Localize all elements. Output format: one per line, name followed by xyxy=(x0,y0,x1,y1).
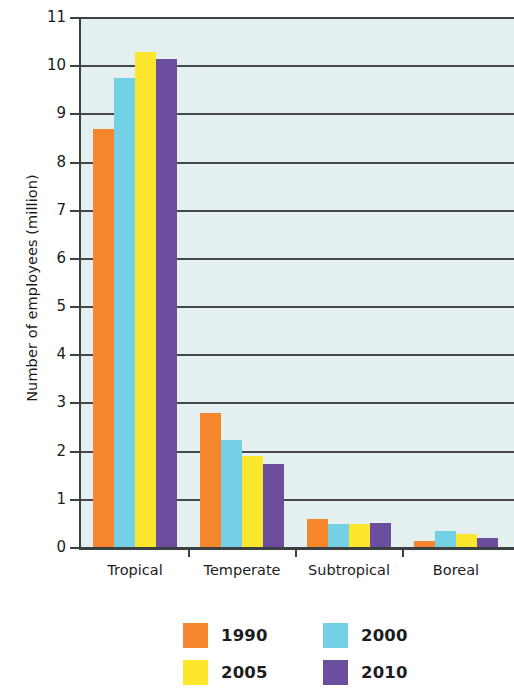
bar-tropical-1990 xyxy=(93,129,114,548)
bar-tropical-2005 xyxy=(135,52,156,548)
bar-chart-figure: Number of employees (million) 0123456789… xyxy=(0,0,514,692)
y-axis-tick xyxy=(70,162,80,164)
y-axis-tick xyxy=(70,402,80,404)
y-axis-tick xyxy=(70,451,80,453)
bar-tropical-2000 xyxy=(114,78,135,548)
y-axis-tick xyxy=(70,499,80,501)
legend-swatch-1990 xyxy=(183,623,208,648)
y-axis-tick-label: 9 xyxy=(26,106,66,121)
legend-label-2000: 2000 xyxy=(361,626,408,645)
bar-temperate-2000 xyxy=(221,440,242,548)
bar-temperate-2005 xyxy=(242,456,263,548)
y-axis-tick-label: 11 xyxy=(26,10,66,25)
y-axis-tick xyxy=(70,306,80,308)
bar-temperate-2010 xyxy=(263,464,284,548)
legend-label-1990: 1990 xyxy=(221,626,268,645)
legend-label-2010: 2010 xyxy=(361,663,408,682)
legend-swatch-2005 xyxy=(183,660,208,685)
bar-boreal-2005 xyxy=(456,534,477,548)
y-axis-tick xyxy=(70,17,80,19)
y-axis-tick-label: 3 xyxy=(26,395,66,410)
x-axis-category-label-boreal: Boreal xyxy=(386,562,514,578)
y-axis-tick-label: 2 xyxy=(26,444,66,459)
chart-legend: 1990200020052010 xyxy=(183,617,463,691)
x-axis-tick xyxy=(188,549,190,557)
bar-boreal-2000 xyxy=(435,531,456,548)
y-axis-tick-label: 5 xyxy=(26,299,66,314)
legend-item-1990: 1990 xyxy=(183,623,323,648)
y-axis-tick xyxy=(70,113,80,115)
y-axis-tick xyxy=(70,547,80,549)
legend-item-2005: 2005 xyxy=(183,660,323,685)
plot-area xyxy=(79,18,514,548)
bar-temperate-1990 xyxy=(200,413,221,548)
bar-tropical-2010 xyxy=(156,59,177,548)
y-axis-tick-label: 8 xyxy=(26,155,66,170)
x-axis-tick xyxy=(402,549,404,557)
legend-item-2000: 2000 xyxy=(323,623,463,648)
y-axis-tick xyxy=(70,210,80,212)
legend-item-2010: 2010 xyxy=(323,660,463,685)
legend-swatch-2000 xyxy=(323,623,348,648)
y-axis-tick-label: 1 xyxy=(26,492,66,507)
bar-subtropical-2010 xyxy=(370,523,391,548)
legend-row: 19902000 xyxy=(183,617,463,654)
x-axis-tick xyxy=(295,549,297,557)
legend-label-2005: 2005 xyxy=(221,663,268,682)
y-axis-tick-labels: 01234567891011 xyxy=(20,0,66,692)
y-axis-tick-label: 6 xyxy=(26,251,66,266)
y-axis-line xyxy=(79,18,81,550)
y-axis-tick-label: 7 xyxy=(26,203,66,218)
y-axis-tick-label: 10 xyxy=(26,58,66,73)
y-axis-tick xyxy=(70,65,80,67)
plot-inner xyxy=(79,18,514,548)
bar-subtropical-2005 xyxy=(349,524,370,548)
y-axis-tick xyxy=(70,258,80,260)
y-axis-tick-label: 4 xyxy=(26,347,66,362)
bar-subtropical-1990 xyxy=(307,519,328,548)
legend-swatch-2010 xyxy=(323,660,348,685)
legend-row: 20052010 xyxy=(183,654,463,691)
bar-subtropical-2000 xyxy=(328,524,349,548)
gridline xyxy=(79,17,514,19)
y-axis-tick xyxy=(70,354,80,356)
y-axis-tick-label: 0 xyxy=(26,540,66,555)
